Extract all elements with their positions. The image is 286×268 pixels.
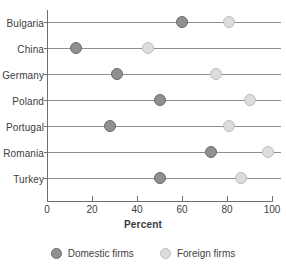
chart-title-cropped — [0, 0, 286, 3]
data-point-foreign — [142, 42, 154, 54]
x-tick — [182, 196, 183, 202]
category-label-china: China — [0, 36, 44, 62]
chart-row: Turkey — [0, 166, 286, 192]
x-axis-title: Percent — [0, 219, 286, 230]
x-tick-label: 60 — [176, 204, 187, 215]
chart-row: Germany — [0, 62, 286, 88]
plot-area: BulgariaChinaGermanyPolandPortugalRomani… — [0, 10, 286, 202]
category-label-germany: Germany — [0, 62, 44, 88]
x-tick-label: 80 — [221, 204, 232, 215]
category-label-turkey: Turkey — [0, 166, 44, 192]
legend-swatch-icon — [51, 248, 62, 259]
chart-row: Bulgaria — [0, 10, 286, 36]
data-point-domestic — [205, 146, 217, 158]
category-label-romania: Romania — [0, 140, 44, 166]
row-baseline — [47, 74, 281, 75]
data-point-domestic — [154, 172, 166, 184]
chart-row: Portugal — [0, 114, 286, 140]
x-tick — [137, 196, 138, 202]
x-tick — [272, 196, 273, 202]
data-point-domestic — [111, 68, 123, 80]
data-point-domestic — [176, 16, 188, 28]
legend-item-domestic: Domestic firms — [51, 248, 134, 259]
x-tick — [92, 196, 93, 202]
x-tick — [47, 196, 48, 202]
data-point-foreign — [235, 172, 247, 184]
row-baseline — [47, 126, 281, 127]
x-tick-label: 40 — [131, 204, 142, 215]
x-tick — [227, 196, 228, 202]
data-point-domestic — [70, 42, 82, 54]
y-axis-line — [47, 10, 48, 202]
dumbbell-chart: BulgariaChinaGermanyPolandPortugalRomani… — [0, 0, 286, 268]
data-point-foreign — [223, 16, 235, 28]
legend-item-foreign: Foreign firms — [160, 248, 235, 259]
legend-swatch-icon — [160, 248, 171, 259]
row-baseline — [47, 152, 281, 153]
category-label-portugal: Portugal — [0, 114, 44, 140]
x-tick-label: 100 — [264, 204, 281, 215]
category-label-poland: Poland — [0, 88, 44, 114]
data-point-foreign — [210, 68, 222, 80]
data-point-domestic — [104, 120, 116, 132]
category-label-bulgaria: Bulgaria — [0, 10, 44, 36]
x-axis-line — [47, 201, 272, 202]
x-tick-label: 20 — [86, 204, 97, 215]
row-baseline — [47, 48, 281, 49]
data-point-foreign — [244, 94, 256, 106]
chart-row: China — [0, 36, 286, 62]
chart-legend: Domestic firmsForeign firms — [0, 243, 286, 263]
x-tick-label: 0 — [44, 204, 50, 215]
chart-row: Poland — [0, 88, 286, 114]
row-baseline — [47, 22, 281, 23]
data-point-foreign — [262, 146, 274, 158]
legend-label: Domestic firms — [68, 248, 134, 259]
data-point-domestic — [154, 94, 166, 106]
data-point-foreign — [223, 120, 235, 132]
chart-row: Romania — [0, 140, 286, 166]
legend-label: Foreign firms — [177, 248, 235, 259]
